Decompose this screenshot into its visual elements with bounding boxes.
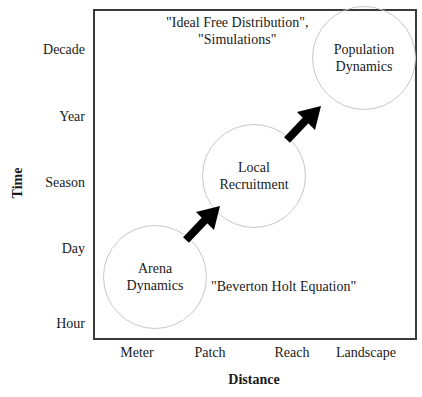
node-label: Dynamics (127, 277, 184, 294)
x-tick-landscape: Landscape (336, 345, 396, 361)
y-tick-season: Season (45, 175, 85, 191)
y-tick-hour: Hour (56, 316, 85, 332)
annotation-line: "Simulations" (166, 31, 308, 48)
y-tick-year: Year (59, 109, 85, 125)
node-label: Population (334, 41, 395, 58)
y-tick-decade: Decade (43, 42, 85, 58)
x-tick-reach: Reach (275, 345, 310, 361)
node-label: Recruitment (219, 176, 288, 193)
annotation-ideal-free-distribution: "Ideal Free Distribution", "Simulations" (166, 14, 308, 48)
annotation-beverton-holt: "Beverton Holt Equation" (211, 278, 356, 295)
annotation-line: "Ideal Free Distribution", (166, 14, 308, 31)
node-arena-dynamics: Arena Dynamics (103, 225, 207, 329)
x-tick-meter: Meter (120, 345, 153, 361)
x-axis-title: Distance (228, 372, 279, 388)
node-label: Dynamics (334, 58, 395, 75)
node-label: Local (219, 159, 288, 176)
node-population-dynamics: Population Dynamics (312, 6, 416, 110)
node-label: Arena (127, 260, 184, 277)
y-tick-day: Day (62, 241, 85, 257)
x-tick-patch: Patch (194, 345, 225, 361)
node-local-recruitment: Local Recruitment (202, 124, 306, 228)
y-axis-title: Time (10, 168, 26, 199)
